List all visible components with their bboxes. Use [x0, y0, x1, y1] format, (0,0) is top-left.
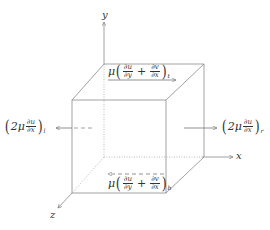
fraction: ∂u∂y — [123, 64, 133, 79]
coefficient: 2μ — [228, 121, 242, 132]
x-axis-label: x — [236, 151, 242, 161]
coefficient: 2μ — [11, 121, 25, 132]
mu-symbol: μ — [108, 66, 115, 77]
cube-diagram — [0, 0, 270, 230]
y-axis-label: y — [102, 10, 108, 20]
fraction: ∂u∂x — [26, 119, 36, 134]
right-normal-stress-label: ( 2μ ∂u∂x ) r — [221, 118, 263, 135]
fraction: ∂v∂x — [150, 64, 160, 79]
hidden-edge-diagonal — [72, 157, 104, 193]
bottom-shear-stress-label: μ ( ∂u∂y + ∂v∂x ) b — [108, 175, 171, 192]
cube-edges — [72, 64, 204, 193]
left-normal-stress-label: ( 2μ ∂u∂x ) l — [4, 118, 46, 135]
fraction: ∂v∂x — [150, 176, 160, 191]
fraction: ∂u∂y — [123, 176, 133, 191]
z-axis-label: z — [50, 210, 55, 220]
fraction: ∂u∂x — [243, 119, 253, 134]
top-shear-stress-label: μ ( ∂u∂y + ∂v∂x ) t — [108, 63, 170, 80]
z-axis — [58, 193, 72, 208]
mu-symbol: μ — [108, 178, 115, 189]
